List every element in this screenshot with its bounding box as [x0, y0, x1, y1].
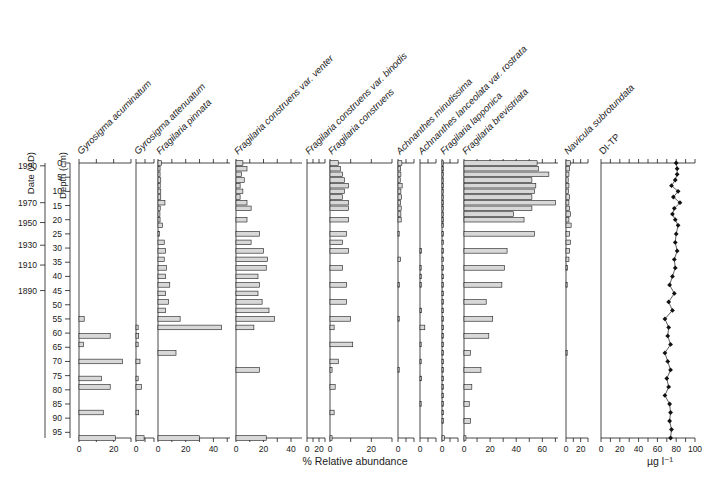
bar: [442, 283, 444, 288]
panel-tick-label: 60: [538, 444, 548, 454]
bar: [330, 217, 349, 222]
bar: [158, 217, 160, 222]
ditp-marker: [673, 240, 678, 245]
bar: [442, 232, 444, 237]
panel-tick-label: 0: [440, 444, 445, 454]
bar: [236, 274, 258, 279]
bar: [158, 172, 160, 177]
bar: [158, 200, 165, 205]
bar: [442, 183, 444, 188]
bar: [236, 183, 240, 188]
bar: [442, 334, 444, 339]
bar: [566, 249, 570, 254]
ditp-tick-label: 100: [688, 444, 702, 454]
panel-tick-label: 40: [511, 444, 521, 454]
bar: [442, 178, 444, 183]
bar: [158, 274, 166, 279]
bar: [420, 283, 421, 288]
bar: [398, 161, 402, 166]
ditp-marker: [670, 212, 675, 217]
bar: [442, 189, 444, 194]
bar: [464, 283, 502, 288]
ditp-marker: [668, 410, 673, 415]
bar: [566, 232, 570, 237]
bar: [464, 195, 532, 200]
bar: [79, 410, 103, 415]
ditp-marker: [673, 178, 678, 183]
bar: [420, 274, 421, 279]
bar: [442, 368, 444, 373]
panel-tick-label: 20: [181, 444, 191, 454]
ditp-marker: [675, 166, 680, 171]
depth-tick-label: 70: [53, 356, 63, 366]
bar: [330, 317, 351, 322]
bar: [236, 436, 266, 441]
depth-tick-label: 30: [53, 243, 63, 253]
bar: [236, 249, 264, 254]
depth-tick-label: 40: [53, 271, 63, 281]
bar: [464, 385, 472, 390]
depth-tick-label: 85: [53, 399, 63, 409]
bar: [330, 232, 347, 237]
bar: [566, 283, 567, 288]
bar: [136, 436, 144, 441]
bar: [330, 368, 332, 373]
bar: [236, 200, 247, 205]
ditp-marker: [673, 265, 678, 270]
bar: [330, 200, 349, 205]
bar: [442, 166, 444, 171]
bar: [236, 206, 251, 211]
bar: [158, 240, 164, 245]
bar: [442, 376, 444, 381]
bar: [330, 189, 344, 194]
bar: [566, 166, 570, 171]
bar: [442, 300, 444, 305]
bar: [566, 223, 571, 228]
bar: [442, 351, 444, 356]
bar: [79, 385, 110, 390]
bar: [330, 266, 342, 271]
bar: [236, 240, 251, 245]
bar: [330, 436, 332, 441]
ditp-marker: [668, 436, 673, 441]
bar: [236, 300, 262, 305]
bar: [464, 206, 532, 211]
panel-gyrosigma-attenuatum: 0: [134, 159, 154, 454]
ditp-marker: [672, 257, 677, 262]
bar: [158, 223, 162, 228]
panel-tick-label: 0: [134, 444, 139, 454]
bar: [236, 291, 258, 296]
bar: [566, 172, 569, 177]
bar: [442, 385, 444, 390]
date-tick-label: 1890: [18, 286, 37, 296]
ditp-marker: [666, 385, 671, 390]
bar: [420, 376, 422, 381]
ditp-marker: [674, 161, 679, 166]
bar: [398, 257, 401, 262]
depth-tick-label: 60: [53, 328, 63, 338]
bar: [398, 166, 401, 171]
bar: [236, 217, 247, 222]
bar: [158, 178, 161, 183]
bar: [158, 249, 166, 254]
bar: [464, 178, 532, 183]
bar: [398, 200, 401, 205]
bar: [136, 359, 140, 364]
depth-tick-label: 15: [53, 201, 63, 211]
depth-tick-label: 20: [53, 215, 63, 225]
bar: [566, 189, 569, 194]
bar: [330, 385, 335, 390]
bar: [236, 195, 240, 200]
bar: [464, 249, 507, 254]
panel-tick-label: 20: [485, 444, 495, 454]
bar: [464, 300, 486, 305]
bar: [136, 385, 141, 390]
ditp-marker: [664, 376, 669, 381]
ditp-marker: [666, 325, 671, 330]
bar: [330, 195, 342, 200]
bar: [442, 317, 444, 322]
bar: [398, 217, 401, 222]
bar: [442, 325, 444, 330]
bar: [420, 325, 425, 330]
panel-tick-label: 0: [396, 444, 401, 454]
